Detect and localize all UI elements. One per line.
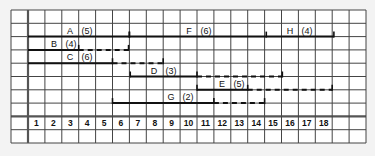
activity-name: E (219, 79, 225, 89)
timeline-number: 16 (285, 118, 295, 128)
timeline-number: 8 (152, 118, 157, 128)
timeline-number: 17 (302, 118, 312, 128)
timeline-number: 4 (85, 118, 90, 128)
activity-name: F (186, 26, 192, 36)
activity-duration: (5) (82, 26, 93, 36)
activity-duration: (6) (201, 26, 212, 36)
timeline-number: 10 (184, 118, 194, 128)
activity-name: G (167, 92, 174, 102)
timeline-number: 15 (268, 118, 278, 128)
activity-duration: (4) (302, 26, 313, 36)
timeline-number: 1 (34, 118, 39, 128)
timeline-number: 3 (68, 118, 73, 128)
timeline-number: 6 (119, 118, 124, 128)
timeline-number: 7 (135, 118, 140, 128)
activity-name: A (67, 26, 73, 36)
activity-name: D (151, 66, 158, 76)
timeline-number: 2 (51, 118, 56, 128)
timeline-number: 11 (201, 118, 210, 128)
activity-duration: (6) (82, 52, 93, 62)
activity-name: B (51, 39, 57, 49)
activity-duration: (2) (183, 92, 194, 102)
activity-duration: (3) (166, 66, 177, 76)
timeline-number: 13 (235, 118, 245, 128)
timeline-number: 5 (102, 118, 107, 128)
timeline-number: 18 (319, 118, 329, 128)
timeline-number: 14 (251, 118, 261, 128)
timeline-number: 9 (169, 118, 174, 128)
activity-duration: (4) (66, 39, 77, 49)
activity-name: H (287, 26, 294, 36)
timeline-number: 12 (218, 118, 228, 128)
gantt-diagram: 123456789101112131415161718 A(5)F(6)H(4)… (0, 0, 375, 156)
activity-name: C (67, 52, 74, 62)
activity-duration: (5) (234, 79, 245, 89)
